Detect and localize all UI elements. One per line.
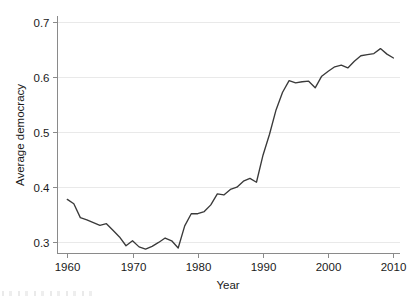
x-tick-label-1990: 1990 [251,261,277,273]
x-tick-label-1970: 1970 [121,261,147,273]
plot-area [67,49,393,249]
y-tick-label-0.3: 0.3 [34,237,50,249]
x-tick-group: 196019701980199020002010 [55,254,407,273]
y-axis-title: Average democracy [14,84,26,186]
x-tick-label-2000: 2000 [316,261,342,273]
y-tick-label-0.6: 0.6 [34,72,50,84]
axis-group [58,16,401,254]
y-tick-label-0.7: 0.7 [34,17,50,29]
x-axis-title: Year [216,279,239,291]
series-line-average-democracy [67,49,393,249]
gridline-group [58,23,401,243]
y-tick-group: 0.30.40.50.60.7 [34,17,58,249]
x-tick-label-1980: 1980 [186,261,212,273]
y-tick-label-0.4: 0.4 [34,182,51,194]
x-tick-label-1960: 1960 [55,261,81,273]
average-democracy-line-chart: 0.30.40.50.60.7 196019701980199020002010… [0,0,415,298]
x-tick-label-2010: 2010 [381,261,407,273]
chart-figure: 0.30.40.50.60.7 196019701980199020002010… [0,0,415,298]
y-tick-label-0.5: 0.5 [34,127,50,139]
